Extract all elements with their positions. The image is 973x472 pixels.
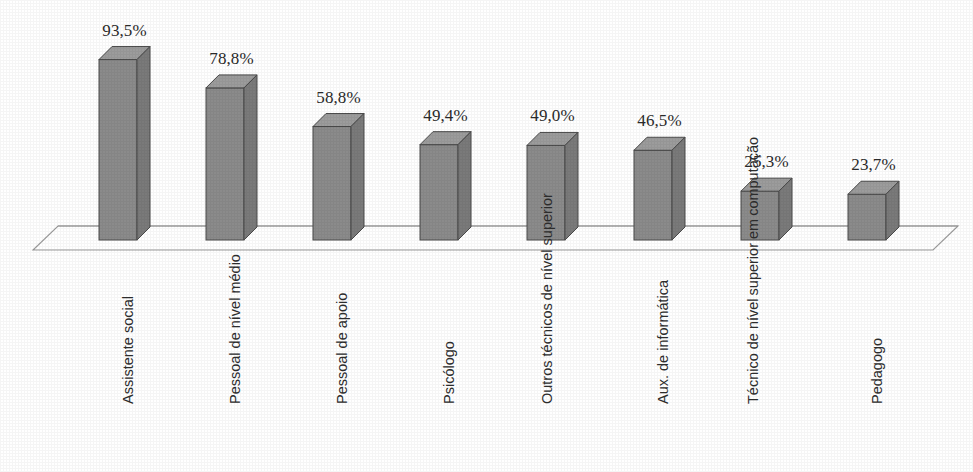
category-label-8: Pedagogo	[869, 335, 885, 404]
category-label-line: Outros técnicos	[539, 303, 555, 404]
category-labels-layer: Assistente socialPessoal de nível médioP…	[0, 0, 973, 472]
category-label-line: Assistente social	[120, 296, 136, 404]
category-label-line: Aux. de informática	[655, 280, 671, 404]
category-label-line: superior em	[745, 219, 761, 296]
category-label-line: Técnico de nível	[745, 298, 761, 404]
category-label-4: Psicólogo	[441, 338, 457, 404]
category-label-line: computação	[745, 137, 761, 216]
category-label-6: Aux. de informática	[655, 277, 671, 404]
category-label-line: Psicólogo	[441, 341, 457, 404]
category-label-2: Pessoal de nível médio	[227, 251, 243, 404]
category-label-line: Pessoal de nível médio	[227, 254, 243, 404]
category-label-line: Pessoal de apoio	[334, 293, 350, 404]
category-label-line: Pedagogo	[869, 338, 885, 404]
bar-chart-3d: 93,5%78,8%58,8%49,4%49,0%46,5%25,3%23,7%…	[0, 0, 973, 472]
category-label-line: de nível superior	[539, 193, 555, 300]
category-label-3: Pessoal de apoio	[334, 290, 350, 404]
category-label-5: Outros técnicosde nível superior	[539, 190, 555, 404]
category-label-7: Técnico de nívelsuperior emcomputação	[745, 134, 761, 404]
category-label-1: Assistente social	[120, 293, 136, 404]
